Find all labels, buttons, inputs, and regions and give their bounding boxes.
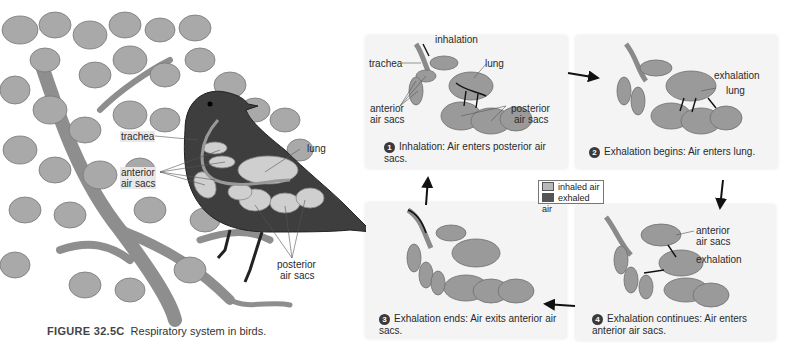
bird-label-anterior-air-sacs-2: air sacs: [120, 178, 156, 189]
exhaled-air-swatch-icon: [542, 193, 554, 202]
legend-item-inhaled: inhaled air: [542, 182, 600, 193]
tree-and-bird-drawing: [0, 0, 372, 320]
legend-label-inhaled: inhaled air: [558, 182, 600, 192]
panel4-caption-wrap: 4Exhalation continues: Air enters anteri…: [592, 313, 772, 337]
panel4-label-exhalation: exhalation: [696, 254, 742, 265]
panel4-label-anterior-1: anterior: [696, 225, 730, 236]
panel2-label-lung: lung: [726, 85, 745, 96]
bird-label-posterior-air-sacs-2: air sacs: [280, 270, 314, 281]
arrow-3-to-1: [426, 178, 428, 205]
bird-label-lung: lung: [307, 143, 326, 154]
panel1-label-anterior-1: anterior: [370, 103, 404, 114]
bird-label-trachea: trachea: [120, 131, 155, 142]
panel1-label-posterior-1: posterior: [511, 103, 550, 114]
legend: inhaled air exhaled air: [538, 180, 604, 204]
panel3-caption: Exhalation ends: Air exits anterior air …: [379, 313, 556, 336]
panel2-caption-wrap: 2Exhalation begins: Air enters lung.: [589, 146, 777, 158]
panel2-label-exhalation: exhalation: [714, 70, 760, 81]
panel1-caption: Inhalation: Air enters posterior air sac…: [384, 141, 546, 164]
figure-number: FIGURE 32.5C: [47, 325, 125, 337]
bird-label-posterior-air-sacs-1: posterior: [277, 259, 316, 270]
inhaled-air-swatch-icon: [542, 182, 554, 191]
step-number-badge-2: 2: [589, 147, 600, 158]
panel1-caption-wrap: 1Inhalation: Air enters posterior air sa…: [384, 141, 564, 165]
panel1-label-trachea: trachea: [369, 58, 402, 69]
bird-illustration: trachea anterior air sacs lung posterior…: [0, 0, 372, 320]
figure-caption: FIGURE 32.5CRespiratory system in birds.: [47, 325, 266, 337]
panel-step-4: anterior air sacs exhalation 4Exhalation…: [576, 205, 775, 340]
step-number-badge-3: 3: [379, 314, 390, 325]
panel1-label-lung: lung: [485, 58, 504, 69]
bird-label-anterior-air-sacs-1: anterior: [120, 167, 156, 178]
panel-step-1: inhalation trachea lung anterior air sac…: [366, 36, 567, 168]
panel-step-3: 3Exhalation ends: Air exits anterior air…: [366, 203, 566, 338]
step-number-badge-1: 1: [384, 142, 395, 153]
step-number-badge-4: 4: [592, 314, 603, 325]
panel4-caption: Exhalation continues: Air enters anterio…: [592, 313, 747, 336]
panel1-label-anterior-2: air sacs: [370, 114, 404, 125]
panel4-label-anterior-2: air sacs: [696, 236, 730, 247]
panel1-label-inhalation: inhalation: [435, 34, 478, 45]
panel3-caption-wrap: 3Exhalation ends: Air exits anterior air…: [379, 313, 564, 337]
figure-title: Respiratory system in birds.: [131, 325, 267, 337]
panel-step-2: exhalation lung 2Exhalation begins: Air …: [576, 36, 777, 168]
arrow-2-to-4: [720, 180, 723, 208]
legend-item-exhaled: exhaled air: [542, 193, 600, 215]
panel2-caption: Exhalation begins: Air enters lung.: [604, 146, 755, 157]
panel1-label-posterior-2: air sacs: [514, 114, 548, 125]
